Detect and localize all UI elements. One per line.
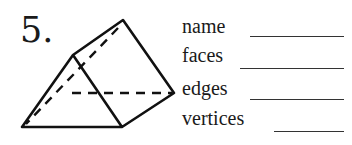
triangular-prism-figure	[0, 0, 180, 145]
name-label: name	[182, 14, 225, 38]
edges-label: edges	[182, 76, 228, 100]
edges-answer-blank[interactable]	[250, 99, 344, 100]
faces-answer-blank[interactable]	[240, 68, 344, 69]
faces-label: faces	[182, 43, 223, 67]
vertices-answer-blank[interactable]	[274, 131, 344, 132]
vertices-label: vertices	[182, 106, 244, 130]
name-answer-blank[interactable]	[250, 36, 344, 37]
